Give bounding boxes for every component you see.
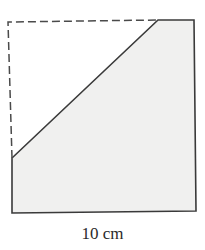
side-length-label: 10 cm <box>0 224 205 244</box>
shaded-pentagon <box>12 20 196 213</box>
diagram <box>0 0 205 250</box>
